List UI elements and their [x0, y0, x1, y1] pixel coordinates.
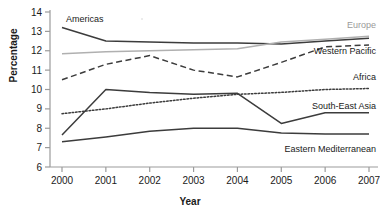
x-tick-label: 2001: [95, 175, 118, 186]
plot-area: 14131211109876 2000200120022003200420052…: [0, 0, 380, 215]
y-tick-label: 8: [36, 123, 42, 134]
y-tick-label: 12: [31, 45, 43, 56]
series-line: [62, 28, 369, 44]
series-label-eastern-mediterranean: Eastern Mediterranean: [284, 144, 376, 154]
x-tick-label: 2005: [270, 175, 293, 186]
x-tick-label: 2003: [182, 175, 205, 186]
series-labels: AmericasEuropeWestern PacificAfricaSouth…: [66, 14, 376, 154]
x-tick-label: 2007: [358, 175, 380, 186]
y-tick-label: 9: [36, 103, 42, 114]
decorative-marks: [141, 18, 142, 19]
series-label-europe: Europe: [347, 20, 376, 30]
x-tick-label: 2000: [51, 175, 74, 186]
y-axis-title: Percentage: [8, 21, 19, 91]
speck-mark: [141, 18, 142, 19]
y-tick-label: 11: [32, 65, 43, 76]
line-chart: Percentage Year 14131211109876 200020012…: [0, 0, 380, 215]
y-tick-label: 7: [36, 142, 42, 153]
y-tick-label: 14: [31, 7, 43, 18]
x-tick-label: 2002: [139, 175, 162, 186]
series-label-africa: Africa: [353, 72, 376, 82]
x-axis-title: Year: [0, 196, 380, 207]
y-tick-label: 13: [31, 26, 43, 37]
y-tick-labels: 14131211109876: [31, 7, 50, 173]
x-tick-labels: 20002001200220032004200520062007: [51, 167, 380, 186]
y-tick-label: 6: [36, 162, 42, 173]
series-label-south-east-asia: South-East Asia: [312, 101, 376, 111]
series-label-americas: Americas: [66, 14, 104, 24]
series-line: [62, 128, 369, 142]
y-tick-label: 10: [31, 84, 43, 95]
series-lines: [62, 28, 369, 142]
series-label-western-pacific: Western Pacific: [314, 46, 377, 56]
x-tick-label: 2004: [226, 175, 249, 186]
x-tick-label: 2006: [314, 175, 337, 186]
